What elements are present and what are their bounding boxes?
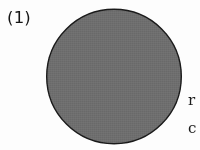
edge-fragment-upper: r — [188, 93, 200, 111]
edge-fragment-lower: c — [188, 121, 200, 139]
panel-label: (1) — [7, 8, 31, 28]
disc-circle-shape — [47, 9, 182, 144]
gray-disc — [45, 8, 183, 145]
disc-svg — [45, 8, 183, 145]
figure-panel: (1) r c — [0, 0, 200, 150]
